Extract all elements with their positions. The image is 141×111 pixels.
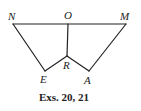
label-r: R (63, 60, 70, 71)
label-n: N (8, 11, 15, 22)
segment-or (67, 24, 68, 56)
segment-am (89, 24, 126, 71)
segment-ra (67, 56, 89, 71)
figure-caption: Exs. 20, 21 (0, 92, 128, 103)
label-o: O (64, 10, 72, 21)
label-a: A (84, 75, 91, 86)
label-e: E (40, 74, 47, 85)
geometry-figure: N O M R E A Exs. 20, 21 (0, 0, 141, 111)
label-m: M (120, 11, 129, 22)
segment-ne (13, 24, 45, 71)
